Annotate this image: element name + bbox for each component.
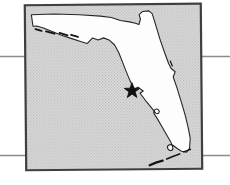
florida-locator-map [0,0,230,185]
map-canvas [0,0,230,185]
map-frame [25,4,202,171]
